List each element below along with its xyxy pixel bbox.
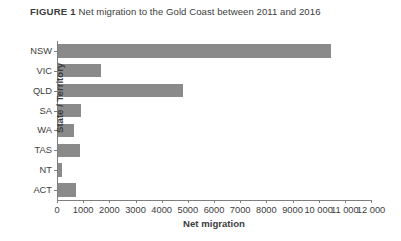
x-axis-tick [240,200,241,203]
y-axis-tick [54,51,57,52]
x-axis-tick-label: 2000 [99,205,120,215]
figure-container: FIGURE 1 Net migration to the Gold Coast… [0,0,401,241]
bar [58,163,62,176]
y-axis-tick-label: ACT [33,185,52,195]
y-axis-tick-label: WA [37,125,52,135]
x-axis-tick [83,200,84,203]
bar-row: VIC [57,61,371,81]
y-axis-tick-label: TAS [35,145,52,155]
x-axis-tick [345,200,346,203]
x-axis-tick [57,200,58,203]
x-axis-tick-label: 10 000 [304,205,332,215]
x-axis-title: Net migration [57,218,371,229]
bar-row: WA [57,121,371,141]
x-axis-tick-label: 11 000 [331,205,359,215]
x-axis-tick-label: 7000 [230,205,251,215]
x-axis-tick-label: 4000 [151,205,172,215]
y-axis-tick [54,190,57,191]
bar [58,44,331,57]
chart-plot-area: NSWVICQLDSAWATASNTACT 010002000300040005… [57,41,371,200]
x-axis-tick [293,200,294,203]
bar-row: SA [57,101,371,121]
y-axis-tick-label: SA [40,106,52,116]
bar-row: QLD [57,81,371,101]
y-axis-tick [54,170,57,171]
x-axis-tick-label: 1000 [73,205,94,215]
x-axis-tick [214,200,215,203]
x-axis-tick-label: 8000 [256,205,277,215]
y-axis-tick-label: NSW [30,46,52,56]
bar-row: TAS [57,140,371,160]
x-axis-tick-label: 9000 [282,205,303,215]
figure-label: FIGURE 1 [30,6,76,17]
x-axis-tick-label: 6000 [204,205,225,215]
y-axis-tick-label: QLD [33,86,52,96]
y-axis-tick-label: NT [40,165,52,175]
x-axis-tick-label: 5000 [177,205,198,215]
y-axis-tick-label: VIC [37,66,53,76]
bar [58,144,80,157]
x-axis-tick [162,200,163,203]
y-axis-tick [54,150,57,151]
bar-row: ACT [57,180,371,200]
x-axis-tick [109,200,110,203]
bar-row: NT [57,160,371,180]
bar [58,84,183,97]
x-axis-tick [371,200,372,203]
bar-row: NSW [57,41,371,61]
figure-caption-text: Net migration to the Gold Coast between … [79,6,321,17]
x-axis-tick-label: 3000 [125,205,146,215]
x-axis-tick [266,200,267,203]
bar [58,183,76,196]
x-axis-tick [319,200,320,203]
y-axis-title: State / Territory [54,63,65,133]
x-axis-tick-label: 12 000 [357,205,385,215]
figure-caption: FIGURE 1 Net migration to the Gold Coast… [30,5,370,19]
x-axis-tick [136,200,137,203]
x-axis-tick-label: 0 [54,205,59,215]
x-axis-tick [188,200,189,203]
